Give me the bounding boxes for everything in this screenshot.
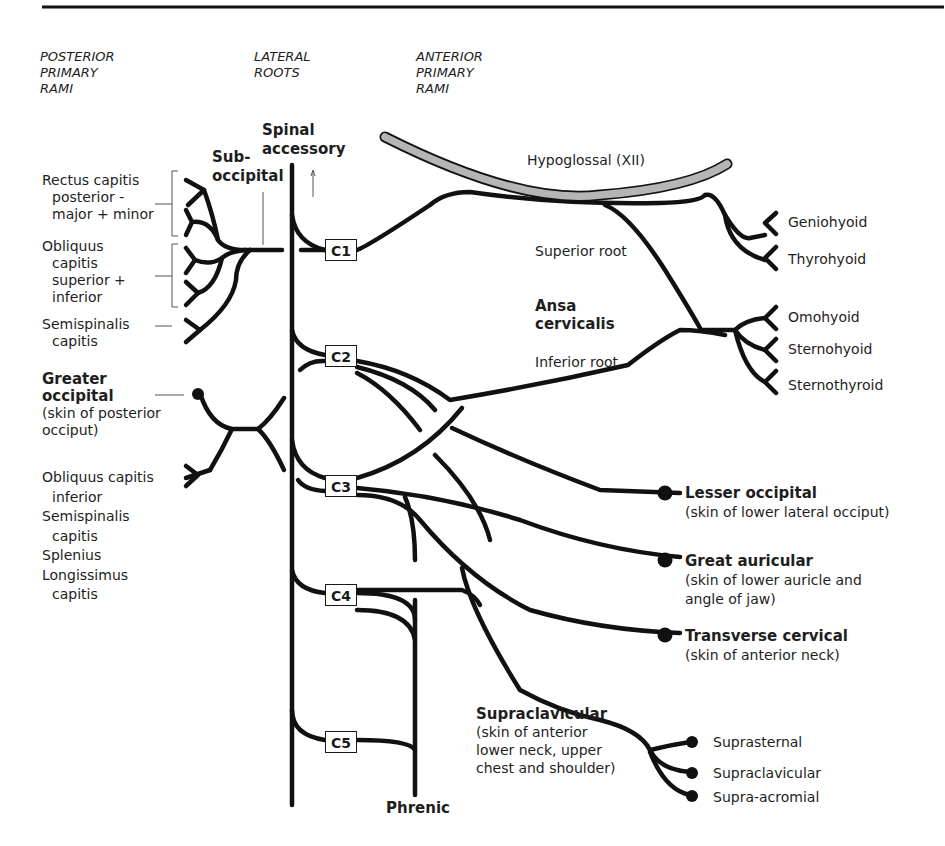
greater-occipital-dot (192, 388, 204, 400)
thyrohyoid-label: Thyrohyoid (788, 251, 866, 268)
sternohyoid-label: Sternohyoid (788, 341, 872, 358)
label-line: major + minor (42, 206, 154, 223)
label-line: inferior (42, 289, 126, 306)
superior-root-label: Superior root (535, 243, 627, 260)
label-line: Semispinalis (42, 507, 154, 527)
great-auricular-label: Great auricular (skin of lower auricle a… (685, 552, 862, 609)
header-line: ROOTS (254, 65, 311, 81)
label-line: occipital (42, 388, 161, 405)
label-line: (skin of anterior neck) (685, 646, 848, 665)
semispinalis-capitis-label: Semispinalis capitis (42, 316, 130, 350)
header-posterior-primary-rami: POSTERIOR PRIMARY RAMI (40, 49, 115, 97)
label-line: cervicalis (535, 315, 615, 333)
root-c2: C2 (325, 345, 357, 367)
geniohyoid-label: Geniohyoid (788, 214, 867, 231)
great-auricular-dot (658, 553, 673, 568)
transverse-cervical-dot (658, 628, 673, 643)
label-line: Transverse cervical (685, 627, 848, 646)
sternothyroid-label: Sternothyroid (788, 377, 883, 394)
header-line: RAMI (40, 81, 115, 97)
label-line: lower neck, upper (476, 741, 615, 759)
label-line: occipital (212, 167, 284, 186)
label-line: Ansa (535, 297, 615, 315)
label-line: occiput) (42, 422, 161, 439)
supraclavicular-branch-label: Supraclavicular (713, 765, 821, 782)
label-line: (skin of anterior (476, 723, 615, 741)
label-line: (skin of lower auricle and (685, 571, 862, 590)
hypoglossal-label: Hypoglossal (XII) (527, 152, 645, 169)
label-line: angle of jaw) (685, 590, 862, 609)
label-line: Rectus capitis (42, 172, 154, 189)
label-line: capitis (42, 255, 126, 272)
label-line: Obliquus capitis (42, 468, 154, 488)
label-line: chest and shoulder) (476, 759, 615, 777)
header-line: PRIMARY (416, 65, 483, 81)
header-line: PRIMARY (40, 65, 115, 81)
label-line: Great auricular (685, 552, 862, 571)
supra-acromial-label: Supra-acromial (713, 789, 819, 806)
supra-acromial-dot (686, 790, 698, 802)
header-anterior-primary-rami: ANTERIOR PRIMARY RAMI (416, 49, 483, 97)
lesser-occipital-dot (658, 486, 673, 501)
label-line: capitis (42, 527, 154, 547)
suprasternal-label: Suprasternal (713, 734, 802, 751)
rectus-capitis-label: Rectus capitis posterior - major + minor (42, 172, 154, 223)
label-line: (skin of posterior (42, 405, 161, 422)
label-line: Splenius (42, 546, 154, 566)
label-line: Obliquus (42, 238, 126, 255)
header-lateral-roots: LATERAL ROOTS (254, 49, 311, 81)
label-line: Lesser occipital (685, 484, 890, 503)
label-line: posterior - (42, 189, 154, 206)
label-line: superior + (42, 272, 126, 289)
label-line: Supraclavicular (476, 705, 615, 723)
label-line: capitis (42, 585, 154, 605)
label-line: Greater (42, 371, 161, 388)
root-c4: C4 (325, 584, 357, 606)
label-line: Sub- (212, 148, 284, 167)
label-line: Longissimus (42, 566, 154, 586)
inferior-root-label: Inferior root (535, 354, 618, 371)
supraclavicular-dot (686, 767, 698, 779)
label-line: capitis (42, 333, 130, 350)
label-line: Semispinalis (42, 316, 130, 333)
phrenic-label: Phrenic (386, 800, 450, 817)
header-line: POSTERIOR (40, 49, 115, 65)
label-line: Spinal (262, 121, 345, 140)
omohyoid-label: Omohyoid (788, 309, 860, 326)
header-line: RAMI (416, 81, 483, 97)
lower-posterior-muscles-label: Obliquus capitis inferior Semispinalis c… (42, 468, 154, 605)
supraclavicular-label: Supraclavicular (skin of anterior lower … (476, 705, 615, 777)
greater-occipital-label: Greater occipital (skin of posterior occ… (42, 371, 161, 439)
root-c3: C3 (325, 475, 357, 497)
header-line: ANTERIOR (416, 49, 483, 65)
ansa-cervicalis-label: Ansa cervicalis (535, 297, 615, 333)
transverse-cervical-label: Transverse cervical (skin of anterior ne… (685, 627, 848, 665)
lesser-occipital-label: Lesser occipital (skin of lower lateral … (685, 484, 890, 522)
suprasternal-dot (686, 736, 698, 748)
header-line: LATERAL (254, 49, 311, 65)
label-line: (skin of lower lateral occiput) (685, 503, 890, 522)
suboccipital-label: Sub- occipital (212, 148, 284, 186)
root-c1: C1 (325, 239, 357, 261)
root-c5: C5 (325, 731, 357, 753)
label-line: inferior (42, 488, 154, 508)
obliquus-capitis-label: Obliquus capitis superior + inferior (42, 238, 126, 306)
